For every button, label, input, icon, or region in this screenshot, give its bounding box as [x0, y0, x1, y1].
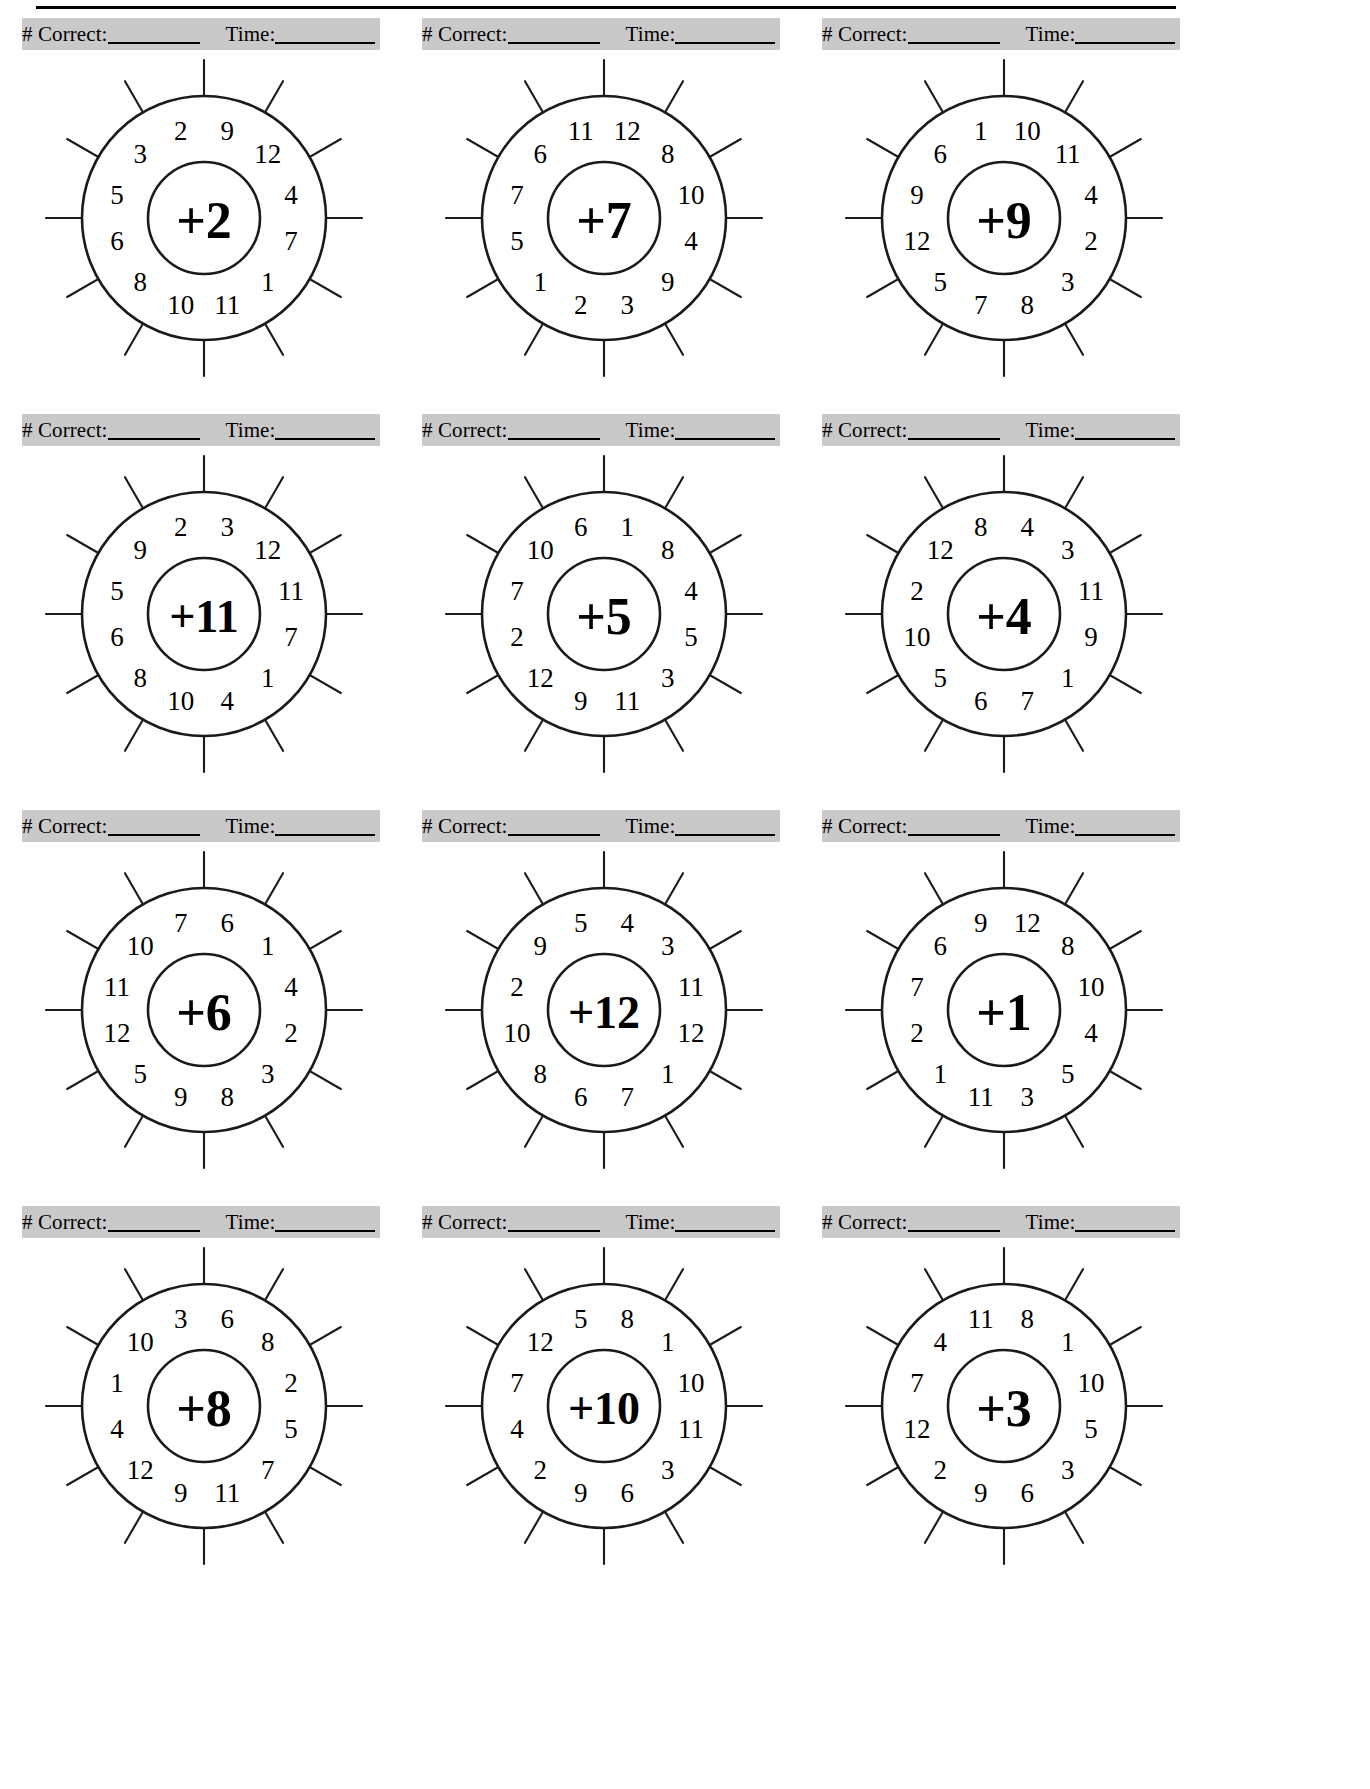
wheel-sector-number: 9: [221, 116, 235, 146]
time-label: Time:: [1026, 22, 1076, 47]
wheel-container: 184531191227106+5: [434, 444, 774, 794]
wheel-sector-number: 11: [214, 1478, 240, 1508]
time-label: Time:: [626, 814, 676, 839]
correct-input-blank[interactable]: [508, 817, 600, 836]
worksheet-page: # Correct:Time:912471111086532+2# Correc…: [0, 0, 1370, 1789]
wheel-sector-number: 7: [510, 1368, 524, 1398]
time-label: Time:: [1026, 1210, 1076, 1235]
wheel-sector-number: 11: [968, 1082, 994, 1112]
wheel-sector-number: 11: [614, 686, 640, 716]
wheel-plus-2: 912471111086532+2: [34, 48, 374, 398]
wheel-sector-number: 4: [684, 226, 698, 256]
correct-input-blank[interactable]: [108, 1213, 200, 1232]
correct-label: # Correct:: [422, 418, 508, 443]
score-bar: # Correct:Time:: [822, 414, 1180, 446]
correct-input-blank[interactable]: [908, 25, 1000, 44]
wheel-sector-number: 6: [621, 1478, 635, 1508]
correct-label: # Correct:: [422, 1210, 508, 1235]
correct-input-blank[interactable]: [508, 25, 600, 44]
wheel-sector-number: 3: [1061, 535, 1075, 565]
wheel-cell: # Correct:Time:101142387512961+9: [822, 18, 1222, 414]
wheel-container: 811053692127411+3: [834, 1236, 1174, 1586]
wheel-sector-number: 11: [214, 290, 240, 320]
correct-input-blank[interactable]: [508, 1213, 600, 1232]
correct-input-blank[interactable]: [908, 817, 1000, 836]
time-label: Time:: [226, 1210, 276, 1235]
wheel-sector-number: 6: [574, 1082, 588, 1112]
time-input-blank[interactable]: [675, 421, 775, 440]
correct-input-blank[interactable]: [108, 817, 200, 836]
time-input-blank[interactable]: [675, 1213, 775, 1232]
time-input-blank[interactable]: [675, 25, 775, 44]
wheel-sector-number: 7: [261, 1455, 275, 1485]
wheel-center-operator: +4: [976, 588, 1032, 645]
wheel-cell: # Correct:Time:811011369247125+10: [422, 1206, 822, 1602]
time-input-blank[interactable]: [275, 421, 375, 440]
wheel-sector-number: 4: [221, 686, 235, 716]
wheel-sector-number: 11: [278, 576, 304, 606]
wheel-container: 431191765102128+4: [834, 444, 1174, 794]
correct-input-blank[interactable]: [108, 421, 200, 440]
wheel-sector-number: 12: [254, 139, 281, 169]
time-label: Time:: [1026, 418, 1076, 443]
wheel-sector-number: 6: [974, 686, 988, 716]
wheel-center-operator: +2: [176, 192, 232, 249]
wheel-sector-number: 1: [261, 663, 275, 693]
wheel-sector-number: 6: [934, 139, 948, 169]
correct-input-blank[interactable]: [108, 25, 200, 44]
wheel-sector-number: 1: [1061, 1327, 1075, 1357]
wheel-sector-number: 7: [910, 972, 924, 1002]
wheel-plus-6: 614238951211107+6: [34, 840, 374, 1190]
wheel-sector-number: 10: [904, 622, 931, 652]
wheel-sector-number: 1: [534, 267, 548, 297]
wheel-sector-number: 12: [677, 1018, 704, 1048]
wheel-sector-number: 4: [1084, 1018, 1098, 1048]
correct-input-blank[interactable]: [908, 1213, 1000, 1232]
time-input-blank[interactable]: [675, 817, 775, 836]
wheel-container: 101142387512961+9: [834, 48, 1174, 398]
wheel-plus-8: 682571191241103+8: [34, 1236, 374, 1586]
correct-label: # Correct:: [822, 1210, 908, 1235]
wheel-sector-number: 4: [934, 1327, 948, 1357]
wheel-sector-number: 2: [174, 116, 188, 146]
time-input-blank[interactable]: [1075, 421, 1175, 440]
wheel-sector-number: 7: [510, 180, 524, 210]
wheel-sector-number: 1: [934, 1059, 948, 1089]
time-input-blank[interactable]: [1075, 1213, 1175, 1232]
time-label: Time:: [1026, 814, 1076, 839]
wheel-sector-number: 2: [510, 972, 524, 1002]
wheel-sector-number: 5: [574, 908, 588, 938]
wheel-sector-number: 9: [661, 267, 675, 297]
correct-input-blank[interactable]: [908, 421, 1000, 440]
wheel-sector-number: 9: [974, 908, 988, 938]
wheel-sector-number: 1: [621, 512, 635, 542]
wheel-sector-number: 12: [614, 116, 641, 146]
wheel-plus-1: 128104531112769+1: [834, 840, 1174, 1190]
wheel-sector-number: 9: [1084, 622, 1098, 652]
wheel-cell: # Correct:Time:614238951211107+6: [22, 810, 422, 1206]
wheel-center-operator: +6: [176, 984, 232, 1041]
wheel-sector-number: 1: [261, 267, 275, 297]
wheel-plus-4: 431191765102128+4: [834, 444, 1174, 794]
time-input-blank[interactable]: [275, 817, 375, 836]
time-input-blank[interactable]: [275, 1213, 375, 1232]
score-bar: # Correct:Time:: [422, 414, 780, 446]
wheel-sector-number: 2: [910, 1018, 924, 1048]
wheel-sector-number: 6: [221, 908, 235, 938]
time-input-blank[interactable]: [1075, 25, 1175, 44]
wheel-container: 312117141086592+11: [34, 444, 374, 794]
wheel-sector-number: 2: [174, 512, 188, 542]
wheel-grid: # Correct:Time:912471111086532+2# Correc…: [0, 0, 1370, 1789]
wheel-plus-9: 101142387512961+9: [834, 48, 1174, 398]
correct-label: # Correct:: [822, 22, 908, 47]
wheel-sector-number: 10: [127, 931, 154, 961]
wheel-sector-number: 12: [527, 1327, 554, 1357]
correct-input-blank[interactable]: [508, 421, 600, 440]
wheel-sector-number: 8: [534, 1059, 548, 1089]
time-input-blank[interactable]: [275, 25, 375, 44]
wheel-sector-number: 7: [510, 576, 524, 606]
wheel-sector-number: 8: [974, 512, 988, 542]
time-input-blank[interactable]: [1075, 817, 1175, 836]
wheel-sector-number: 2: [934, 1455, 948, 1485]
wheel-center-operator: +9: [976, 192, 1032, 249]
